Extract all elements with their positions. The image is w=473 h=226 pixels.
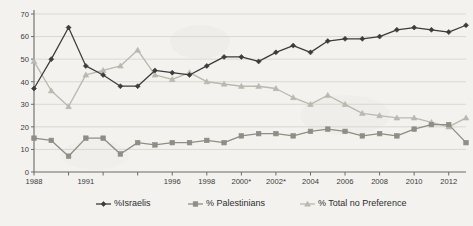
- data-point-marker: [308, 129, 313, 134]
- y-tick-label: 50: [21, 55, 29, 64]
- data-point-marker: [464, 140, 469, 145]
- legend-item-2[interactable]: % Palestinians: [188, 198, 266, 208]
- legend-label: %Israelis: [114, 198, 151, 208]
- data-point-marker: [205, 138, 210, 143]
- data-point-marker: [49, 138, 54, 143]
- data-point-marker: [256, 59, 261, 64]
- data-point-marker: [187, 140, 192, 145]
- data-point-marker: [66, 25, 71, 30]
- data-point-marker: [32, 136, 37, 141]
- y-axis-labels: 010203040506070: [21, 10, 34, 177]
- series-2: [32, 122, 469, 158]
- data-point-marker: [395, 134, 400, 139]
- legend-item-1[interactable]: %Israelis: [96, 198, 151, 208]
- data-point-marker: [239, 134, 244, 139]
- x-tick-label: 2012: [440, 177, 457, 186]
- data-point-marker: [464, 23, 469, 28]
- y-tick-label: 60: [21, 32, 29, 41]
- data-point-marker: [291, 134, 296, 139]
- y-tick-label: 0: [25, 168, 29, 177]
- data-point-marker: [222, 54, 227, 59]
- data-point-marker: [83, 63, 88, 68]
- data-point-marker: [135, 47, 141, 52]
- chart-legend[interactable]: %Israelis% Palestinians% Total no Prefer…: [96, 198, 406, 208]
- data-point-marker: [394, 27, 399, 32]
- series-line: [34, 25, 466, 88]
- data-point-marker: [360, 134, 365, 139]
- x-tick-label: 1996: [164, 177, 181, 186]
- data-point-marker: [412, 25, 417, 30]
- legend-item-3[interactable]: % Total no Preference: [300, 198, 406, 208]
- y-tick-label: 70: [21, 10, 29, 19]
- data-point-marker: [412, 127, 417, 132]
- x-tick-label: 2000*: [231, 177, 251, 186]
- data-point-marker: [222, 140, 227, 145]
- data-point-marker: [343, 36, 348, 41]
- data-point-marker: [360, 36, 365, 41]
- x-tick-label: 2010: [406, 177, 423, 186]
- data-point-marker: [118, 152, 123, 157]
- data-point-marker: [343, 129, 348, 134]
- data-point-marker: [204, 63, 209, 68]
- data-point-marker: [101, 202, 106, 207]
- x-axis-labels: 19881991199619982000*2002*20042006200820…: [26, 172, 458, 186]
- x-tick-label: 2008: [371, 177, 388, 186]
- data-point-marker: [170, 70, 175, 75]
- data-point-marker: [274, 131, 279, 136]
- data-point-marker: [170, 140, 175, 145]
- axes: [34, 10, 466, 172]
- y-tick-label: 20: [21, 123, 29, 132]
- data-point-marker: [239, 54, 244, 59]
- data-point-marker: [446, 30, 451, 35]
- data-point-marker: [291, 43, 296, 48]
- data-point-marker: [463, 115, 469, 120]
- line-chart-plot: 010203040506070 19881991199619982000*200…: [0, 0, 473, 226]
- legend-label: % Palestinians: [206, 198, 266, 208]
- data-point-marker: [429, 27, 434, 32]
- x-tick-label: 1991: [77, 177, 94, 186]
- data-point-marker: [377, 131, 382, 136]
- gridlines: [34, 14, 466, 149]
- data-point-marker: [377, 34, 382, 39]
- data-series: [31, 23, 469, 159]
- data-point-marker: [273, 50, 278, 55]
- x-tick-label: 1998: [198, 177, 215, 186]
- y-tick-label: 40: [21, 78, 29, 87]
- data-point-marker: [193, 202, 198, 207]
- data-point-marker: [66, 154, 71, 159]
- series-line: [34, 125, 466, 157]
- data-point-marker: [446, 122, 451, 127]
- chart-container: 010203040506070 19881991199619982000*200…: [0, 0, 473, 226]
- x-tick-label: 2006: [337, 177, 354, 186]
- data-point-marker: [84, 136, 89, 141]
- data-point-marker: [325, 127, 330, 132]
- data-point-marker: [135, 140, 140, 145]
- y-tick-label: 30: [21, 100, 29, 109]
- data-point-marker: [429, 122, 434, 127]
- x-tick-label: 2002*: [266, 177, 286, 186]
- series-line: [34, 50, 466, 127]
- data-point-marker: [153, 143, 158, 148]
- x-tick-label: 2004: [302, 177, 319, 186]
- data-point-marker: [101, 136, 106, 141]
- data-point-marker: [256, 131, 261, 136]
- series-1: [32, 23, 469, 91]
- legend-label: % Total no Preference: [318, 198, 406, 208]
- y-tick-label: 10: [21, 145, 29, 154]
- x-tick-label: 1988: [26, 177, 43, 186]
- data-point-marker: [325, 92, 331, 97]
